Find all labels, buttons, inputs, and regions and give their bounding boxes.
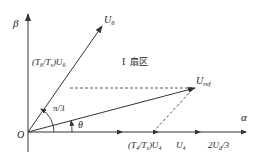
origin-label: O	[17, 129, 24, 140]
beta-label: β	[12, 17, 19, 29]
alpha-label: α	[241, 111, 247, 123]
sector-roman-label: I	[122, 56, 125, 67]
u6-label: U6	[104, 14, 115, 27]
theta-arc	[71, 121, 72, 132]
t4-projection-dashed	[153, 90, 192, 132]
u4-label: U4	[176, 140, 186, 151]
theta-label: θ	[78, 119, 83, 130]
u6-vector	[28, 26, 102, 132]
t6-component-label: (T6/Ts)U6	[32, 57, 65, 68]
t4-component-label: (T4/Ts)U4	[128, 140, 161, 151]
two-ud-over-3-label: 2Ud/3	[208, 140, 230, 151]
pi-over-3-label: π/3	[53, 103, 65, 113]
sector-text-label: 扇区	[130, 56, 148, 67]
svpwm-vector-diagram: β α O U6 Uref (T6/Ts)U6 (T4/Ts)U4 U4 2Ud…	[0, 0, 267, 157]
uref-label: Uref	[196, 75, 212, 88]
